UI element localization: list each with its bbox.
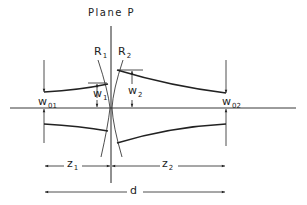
r1-label: R1 xyxy=(94,46,107,57)
w01-label: w01 xyxy=(38,96,57,107)
beam-2-lower-envelope xyxy=(117,124,226,143)
beam-1-lower-envelope xyxy=(44,124,108,131)
w02-label: w02 xyxy=(222,96,241,107)
w1-label: w1 xyxy=(93,88,107,99)
plane-p-label: Plane P xyxy=(88,8,135,18)
wavefront-r1 xyxy=(98,60,110,157)
z2-label: z2 xyxy=(162,158,173,169)
d-label: d xyxy=(130,185,137,196)
z1-label: z1 xyxy=(67,158,78,169)
w2-label: w2 xyxy=(128,85,142,96)
r2-label: R2 xyxy=(118,46,131,57)
